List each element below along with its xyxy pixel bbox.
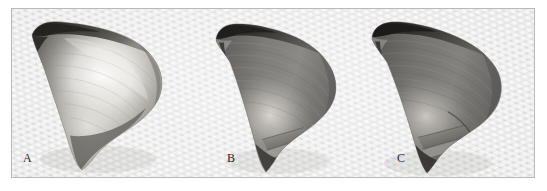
panel-label-c: C <box>397 152 405 164</box>
surface-model-b <box>200 9 360 177</box>
figure-root: A B C <box>0 0 547 191</box>
panel-label-a: A <box>23 152 32 164</box>
surface-model-c <box>352 9 528 177</box>
surface-model-a <box>12 9 192 177</box>
figure-panel: A B C <box>11 8 535 178</box>
panel-label-b: B <box>227 152 235 164</box>
